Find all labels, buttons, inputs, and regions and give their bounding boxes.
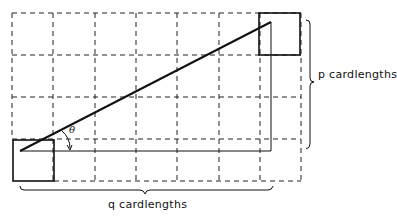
diagonal-line — [20, 22, 271, 151]
dashed-grid — [12, 13, 301, 181]
end-card-square — [259, 13, 300, 55]
start-card-square — [13, 140, 54, 181]
p-brace — [306, 20, 314, 149]
q-cardlengths-label: q cardlengths — [108, 198, 187, 211]
angle-theta-label: θ — [69, 124, 75, 135]
q-brace — [20, 186, 273, 194]
p-cardlengths-label: p cardlengths — [318, 68, 397, 81]
